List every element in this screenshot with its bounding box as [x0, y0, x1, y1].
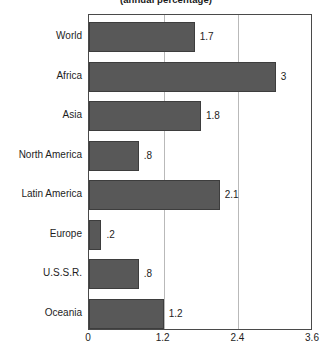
- category-label: Oceania: [0, 298, 82, 328]
- bar: [89, 259, 139, 289]
- bar: [89, 141, 139, 171]
- bar-value-label: .8: [144, 141, 152, 171]
- category-label: Asia: [0, 100, 82, 130]
- bar: [89, 220, 101, 250]
- bar: [89, 180, 220, 210]
- category-label: North America: [0, 140, 82, 170]
- bar-value-label: .2: [106, 220, 114, 250]
- category-label: World: [0, 21, 82, 51]
- bar-value-label: .8: [144, 259, 152, 289]
- category-axis: WorldAfricaAsiaNorth AmericaLatin Americ…: [0, 14, 88, 330]
- chart-title: (annual percentage): [0, 0, 332, 5]
- bar-value-label: 3: [281, 62, 287, 92]
- bar: [89, 22, 195, 52]
- plot-area: 1.731.8.82.1.2.81.2: [88, 14, 312, 330]
- bar-value-label: 1.2: [169, 299, 183, 329]
- bar-chart: (annual percentage) WorldAfricaAsiaNorth…: [0, 0, 332, 350]
- x-tick-label: 3.6: [305, 332, 319, 343]
- x-tick-label: 0: [85, 332, 91, 343]
- bar: [89, 101, 201, 131]
- x-axis: 01.22.43.6: [88, 332, 312, 348]
- category-label: U.S.S.R.: [0, 258, 82, 288]
- bar-value-label: 1.8: [206, 101, 220, 131]
- category-label: Europe: [0, 219, 82, 249]
- bar-value-label: 1.7: [200, 22, 214, 52]
- bar-value-label: 2.1: [225, 180, 239, 210]
- bar: [89, 62, 276, 92]
- bar: [89, 299, 164, 329]
- x-tick-label: 1.2: [156, 332, 170, 343]
- category-label: Latin America: [0, 179, 82, 209]
- x-tick-label: 2.4: [230, 332, 244, 343]
- category-label: Africa: [0, 61, 82, 91]
